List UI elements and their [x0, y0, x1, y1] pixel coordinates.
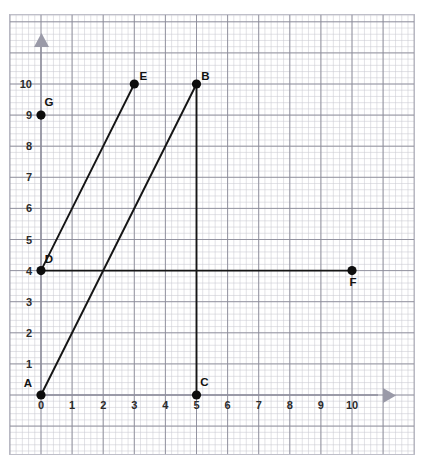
y-tick-label-7: 7	[26, 171, 32, 183]
coordinate-grid-figure: 012345678910 12345678910 ABCDEFG	[0, 0, 424, 470]
point-b	[192, 79, 201, 88]
x-tick-label-4: 4	[162, 399, 169, 411]
y-tick-label-4: 4	[26, 265, 33, 277]
y-tick-label-3: 3	[26, 296, 32, 308]
y-tick-label-5: 5	[26, 234, 32, 246]
y-tick-label-1: 1	[26, 358, 32, 370]
y-tick-label-6: 6	[26, 202, 32, 214]
point-label-b: B	[201, 70, 209, 82]
x-tick-label-10: 10	[346, 399, 358, 411]
x-tick-label-7: 7	[256, 399, 262, 411]
point-label-f: F	[349, 276, 356, 288]
point-label-g: G	[45, 96, 54, 108]
point-d	[36, 266, 45, 275]
point-label-e: E	[139, 70, 147, 82]
point-a	[36, 390, 45, 399]
y-axis-arrow-icon	[34, 33, 49, 47]
grid-border	[10, 15, 415, 455]
x-tick-label-1: 1	[69, 399, 75, 411]
x-axis-tick-labels: 012345678910	[38, 399, 358, 411]
point-c	[192, 390, 201, 399]
point-e	[130, 79, 139, 88]
point-g	[36, 111, 45, 120]
x-tick-label-8: 8	[287, 399, 293, 411]
point-f	[347, 266, 356, 275]
coordinate-plane-svg: 012345678910 12345678910 ABCDEFG	[0, 0, 424, 470]
x-tick-label-9: 9	[318, 399, 324, 411]
point-label-d: D	[45, 253, 53, 265]
y-tick-label-9: 9	[26, 109, 32, 121]
x-tick-label-3: 3	[131, 399, 137, 411]
y-axis-tick-labels: 12345678910	[20, 78, 33, 370]
point-label-c: C	[200, 376, 208, 388]
y-tick-label-2: 2	[26, 327, 32, 339]
point-label-a: A	[24, 377, 32, 389]
y-tick-label-8: 8	[26, 140, 32, 152]
y-tick-label-10: 10	[20, 78, 32, 90]
x-tick-label-6: 6	[225, 399, 231, 411]
x-tick-label-0: 0	[38, 399, 44, 411]
major-gridlines	[10, 15, 415, 455]
x-tick-label-5: 5	[193, 399, 199, 411]
minor-gridlines	[10, 15, 415, 455]
x-tick-label-2: 2	[100, 399, 106, 411]
